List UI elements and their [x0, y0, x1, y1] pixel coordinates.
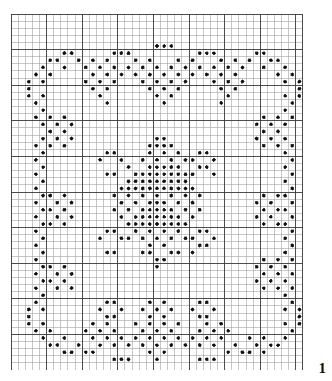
filled-cell	[48, 329, 51, 332]
filled-cell	[113, 80, 116, 83]
filled-cell	[241, 66, 244, 69]
filled-cell	[148, 180, 151, 183]
filled-cell	[298, 308, 301, 311]
filled-cell	[141, 173, 144, 176]
filled-cell	[162, 73, 165, 76]
filled-cell	[255, 265, 258, 268]
filled-cell	[98, 66, 101, 69]
filled-cell	[262, 336, 265, 339]
filled-cell	[191, 59, 194, 62]
filled-cell	[162, 222, 165, 225]
filled-cell	[170, 180, 173, 183]
filled-cell	[212, 308, 215, 311]
filled-cell	[191, 308, 194, 311]
filled-cell	[120, 237, 123, 240]
filled-cell	[262, 194, 265, 197]
filled-cell	[155, 180, 158, 183]
filled-cell	[162, 322, 165, 325]
filled-cell	[184, 158, 187, 161]
filled-cell	[105, 59, 108, 62]
filled-cell	[269, 137, 272, 140]
filled-cell	[198, 329, 201, 332]
filled-cell	[276, 144, 279, 147]
filled-cell	[148, 201, 151, 204]
filled-cell	[155, 194, 158, 197]
filled-cell	[205, 322, 208, 325]
filled-cell	[170, 251, 173, 254]
filled-cell	[56, 343, 59, 346]
filled-cell	[120, 215, 123, 218]
filled-cell	[291, 258, 294, 261]
filled-cell	[198, 151, 201, 154]
filled-cell	[56, 137, 59, 140]
filled-cell	[27, 94, 30, 97]
filled-cell	[162, 187, 165, 190]
filled-cell	[34, 272, 37, 275]
filled-cell	[177, 180, 180, 183]
filled-cell	[162, 173, 165, 176]
filled-cell	[120, 201, 123, 204]
filled-cell	[162, 229, 165, 232]
filled-cell	[212, 80, 215, 83]
filled-cell	[41, 308, 44, 311]
filled-cell	[41, 137, 44, 140]
filled-cell	[141, 187, 144, 190]
filled-cell	[34, 187, 37, 190]
filled-cell	[205, 73, 208, 76]
filled-cell	[162, 44, 165, 47]
filled-cell	[34, 173, 37, 176]
filled-cell	[155, 201, 158, 204]
filled-cell	[262, 130, 265, 133]
filled-cell	[148, 144, 151, 147]
filled-cell	[148, 59, 151, 62]
filled-cell	[105, 151, 108, 154]
filled-cell	[134, 173, 137, 176]
filled-cell	[212, 66, 215, 69]
filled-cell	[227, 94, 230, 97]
filled-cell	[291, 229, 294, 232]
filled-cell	[177, 173, 180, 176]
filled-cell	[269, 343, 272, 346]
filled-cell	[84, 80, 87, 83]
filled-cell	[27, 80, 30, 83]
filled-cell	[155, 258, 158, 261]
filled-cell	[177, 215, 180, 218]
filled-cell	[34, 116, 37, 119]
filled-cell	[212, 237, 215, 240]
filled-cell	[205, 315, 208, 318]
filled-cell	[184, 180, 187, 183]
filled-cell	[198, 165, 201, 168]
filled-cell	[113, 251, 116, 254]
filled-cell	[155, 80, 158, 83]
filled-cell	[63, 66, 66, 69]
filled-cell	[155, 187, 158, 190]
filled-cell	[162, 315, 165, 318]
filled-cell	[48, 279, 51, 282]
filled-cell	[269, 59, 272, 62]
filled-cell	[113, 315, 116, 318]
filled-cell	[141, 237, 144, 240]
filled-cell	[205, 165, 208, 168]
filled-cell	[141, 180, 144, 183]
filled-cell	[283, 151, 286, 154]
filled-cell	[269, 215, 272, 218]
filled-cell	[141, 222, 144, 225]
filled-cell	[91, 73, 94, 76]
filled-cell	[155, 222, 158, 225]
filled-cell	[198, 315, 201, 318]
filled-cell	[191, 158, 194, 161]
filled-cell	[177, 165, 180, 168]
filled-cell	[105, 87, 108, 90]
filled-cell	[27, 315, 30, 318]
filled-cell	[283, 80, 286, 83]
filled-cell	[84, 351, 87, 354]
filled-cell	[134, 222, 137, 225]
filled-cell	[283, 237, 286, 240]
filled-cell	[41, 180, 44, 183]
filled-cell	[155, 44, 158, 47]
filled-cell	[148, 87, 151, 90]
filled-cell	[219, 59, 222, 62]
filled-cell	[77, 59, 80, 62]
filled-cell	[63, 265, 66, 268]
filled-cell	[34, 101, 37, 104]
